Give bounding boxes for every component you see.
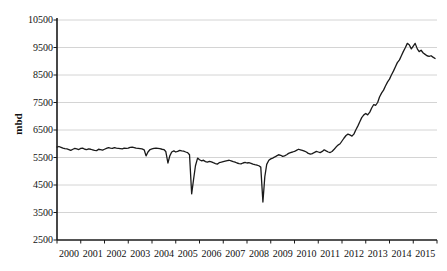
y-tick-label: 6500 [9,125,53,135]
y-axis-tick-labels: 2500350045005500650075008500950010500 [0,0,53,271]
y-tick-label: 10500 [9,15,53,25]
y-tick-label: 2500 [9,235,53,245]
plot-area [0,0,447,271]
gridlines [57,20,437,240]
x-tick-label: 2015 [405,249,445,259]
y-tick-label: 5500 [9,153,53,163]
y-tick-label: 4500 [9,180,53,190]
y-tick-label: 8500 [9,70,53,80]
y-tick-label: 7500 [9,98,53,108]
y-tick-label: 3500 [9,208,53,218]
chart-figure: mbd 250035004500550065007500850095001050… [0,0,447,271]
y-tick-label: 9500 [9,43,53,53]
axis-ticks [54,20,438,244]
data-series-line [57,43,435,202]
